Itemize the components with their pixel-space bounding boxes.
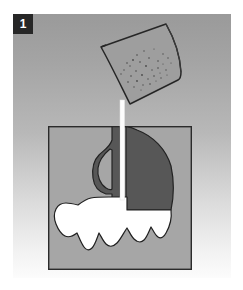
pour-stream	[120, 100, 125, 200]
illustration-canvas	[0, 0, 243, 290]
step-illustration-figure: 1	[0, 0, 243, 290]
stream-column	[120, 100, 125, 200]
step-number-badge: 1	[13, 14, 33, 34]
